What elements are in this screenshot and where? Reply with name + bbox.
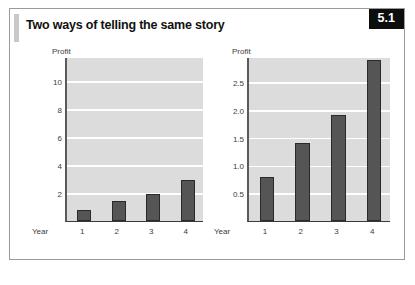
y-axis-tick-right: 2.5 — [233, 79, 244, 88]
bar — [260, 177, 274, 221]
bar — [295, 143, 309, 221]
x-axis-tick-right: 2 — [298, 227, 302, 236]
plot-area-left — [65, 58, 203, 222]
figure-number-badge: 5.1 — [369, 9, 404, 29]
y-axis-tick-right: 2.0 — [233, 106, 244, 115]
x-axis-tick-right: 1 — [263, 227, 267, 236]
x-axis-label-left: Year — [32, 227, 48, 236]
x-axis-tick-left: 4 — [184, 227, 188, 236]
y-axis-tick-right: 0.5 — [233, 190, 244, 199]
x-axis-tick-right: 3 — [334, 227, 338, 236]
gridline — [67, 109, 203, 111]
plot-area-right — [247, 58, 390, 222]
chart-panel-left: Profit Year 2468101234 — [26, 47, 210, 255]
bar — [112, 201, 126, 221]
x-axis-tick-left: 3 — [149, 227, 153, 236]
x-axis-tick-left: 1 — [80, 227, 84, 236]
bar — [331, 115, 345, 221]
chart-panel-right: Profit Year 0.51.01.52.02.51234 — [206, 47, 396, 255]
figure-container: Two ways of telling the same story 5.1 P… — [9, 8, 405, 260]
y-axis-tick-left: 4 — [58, 161, 62, 170]
gridline — [67, 137, 203, 139]
bar — [146, 194, 160, 221]
figure-title: Two ways of telling the same story — [26, 18, 225, 32]
x-axis-tick-left: 2 — [115, 227, 119, 236]
y-axis-tick-left: 8 — [58, 105, 62, 114]
bar — [181, 180, 195, 221]
y-axis-label-left: Profit — [52, 47, 71, 56]
x-axis-label-right: Year — [214, 227, 230, 236]
bar — [77, 210, 91, 221]
bar — [367, 60, 381, 221]
y-axis-label-right: Profit — [232, 47, 251, 56]
y-axis-tick-left: 6 — [58, 133, 62, 142]
y-axis-tick-left: 10 — [53, 77, 62, 86]
y-axis-tick-right: 1.0 — [233, 162, 244, 171]
x-axis-tick-right: 4 — [370, 227, 374, 236]
title-accent-bar — [14, 14, 19, 42]
gridline — [67, 165, 203, 167]
y-axis-tick-right: 1.5 — [233, 134, 244, 143]
gridline — [67, 81, 203, 83]
y-axis-tick-left: 2 — [58, 189, 62, 198]
